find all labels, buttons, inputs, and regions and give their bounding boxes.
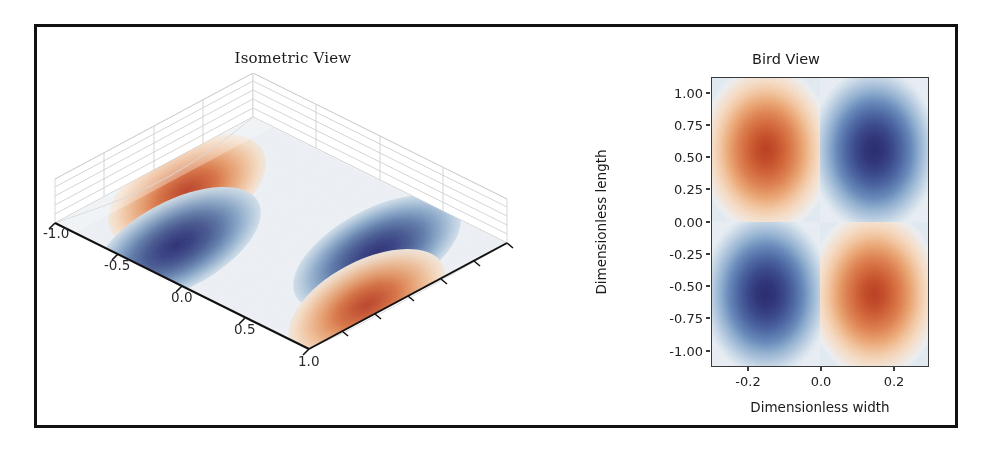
bird-ytick-mark-2 [706, 156, 710, 158]
bird-view-axes [711, 77, 929, 367]
isometric-surface-svg [37, 73, 549, 413]
heatmap-quadrant-bottom-right [820, 222, 928, 366]
isometric-xtick-0: -1.0 [43, 225, 69, 241]
page-canvas: Isometric View [0, 0, 996, 463]
bird-ytick-label-3: 0.25 [637, 182, 703, 197]
isometric-xtick-1: -0.5 [104, 257, 130, 273]
bird-ytick-mark-1 [706, 124, 710, 126]
heatmap-quadrant-bottom-left [712, 222, 820, 366]
bird-ytick-mark-3 [706, 188, 710, 190]
bird-ytick-label-7: -0.75 [637, 311, 703, 326]
bird-ytick-label-2: 0.50 [637, 150, 703, 165]
bird-ytick-label-1: 0.75 [637, 118, 703, 133]
isometric-view-title: Isometric View [37, 49, 549, 67]
isometric-view-panel: Isometric View [37, 27, 549, 425]
heatmap-quadrant-top-left [712, 78, 820, 222]
bird-xtick-mark-1 [820, 367, 822, 371]
bird-view-heatmap [712, 78, 928, 366]
bird-ytick-mark-6 [706, 285, 710, 287]
bird-xtick-label-1: 0.0 [811, 374, 832, 389]
isometric-xtick-3: 0.5 [234, 321, 255, 337]
bird-ytick-mark-5 [706, 253, 710, 255]
bird-ytick-mark-0 [706, 92, 710, 94]
bird-ytick-mark-4 [706, 221, 710, 223]
bird-ytick-label-6: -0.50 [637, 279, 703, 294]
bird-ytick-mark-8 [706, 350, 710, 352]
heatmap-quadrant-top-right [820, 78, 928, 222]
bird-xtick-label-2: 0.2 [884, 374, 905, 389]
bird-view-x-axis-label: Dimensionless width [711, 399, 929, 415]
isometric-xtick-4: 1.0 [298, 353, 319, 369]
isometric-xtick-2: 0.0 [171, 289, 192, 305]
bird-view-y-axis-label: Dimensionless length [593, 149, 609, 294]
isometric-3d-stage: -1.0 -0.5 0.0 0.5 1.0 [37, 73, 549, 413]
bird-ytick-mark-7 [706, 317, 710, 319]
bird-xtick-mark-2 [893, 367, 895, 371]
bird-view-panel: Bird View Dimensionless length 1.00 0.75… [549, 27, 955, 425]
bird-ytick-label-4: 0.00 [637, 215, 703, 230]
bird-xtick-label-0: -0.2 [735, 374, 760, 389]
bird-ytick-label-0: 1.00 [637, 86, 703, 101]
bird-ytick-label-5: -0.25 [637, 247, 703, 262]
bird-ytick-label-8: -1.00 [637, 344, 703, 359]
bird-xtick-mark-0 [747, 367, 749, 371]
bird-view-title: Bird View [641, 51, 931, 67]
figure-frame: Isometric View [34, 24, 958, 428]
